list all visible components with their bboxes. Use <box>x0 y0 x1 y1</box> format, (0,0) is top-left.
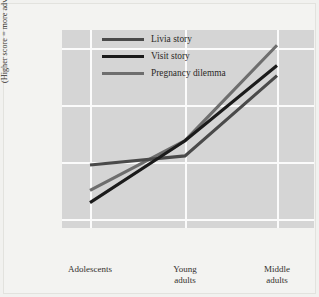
figure: Level of reasoning (Higher score = more … <box>0 0 319 297</box>
series-line-visit-story <box>90 66 277 203</box>
legend-label-pregnancy-dilemma: Pregnancy dilemma <box>151 68 226 78</box>
legend-swatch-livia-story <box>102 38 144 41</box>
legend-item-pregnancy-dilemma: Pregnancy dilemma <box>102 68 226 78</box>
legend-swatch-visit-story <box>102 55 144 58</box>
x-tick-label-adolescents: Adolescents <box>35 264 145 275</box>
legend-label-visit-story: Visit story <box>151 51 190 61</box>
y-axis-title: Level of reasoning (Higher score = more … <box>0 0 10 118</box>
legend-swatch-pregnancy-dilemma <box>102 72 144 75</box>
x-tick-middle-adults-line1: Middle <box>222 264 319 275</box>
legend-label-livia-story: Livia story <box>151 34 192 44</box>
x-tick-label-middle-adults: Middle adults <box>222 264 319 287</box>
y-axis-title-line2: (Higher score = more advanced reasoning) <box>0 0 10 118</box>
x-tick-adolescents-line1: Adolescents <box>35 264 145 275</box>
x-tick-middle-adults-line2: adults <box>222 275 319 286</box>
legend-item-livia-story: Livia story <box>102 34 226 44</box>
legend-item-visit-story: Visit story <box>102 51 226 61</box>
legend: Livia story Visit story Pregnancy dilemm… <box>102 34 226 78</box>
plot-panel: 4.0 3.5 3.0 2.5 Livia story Visit story … <box>62 30 314 228</box>
